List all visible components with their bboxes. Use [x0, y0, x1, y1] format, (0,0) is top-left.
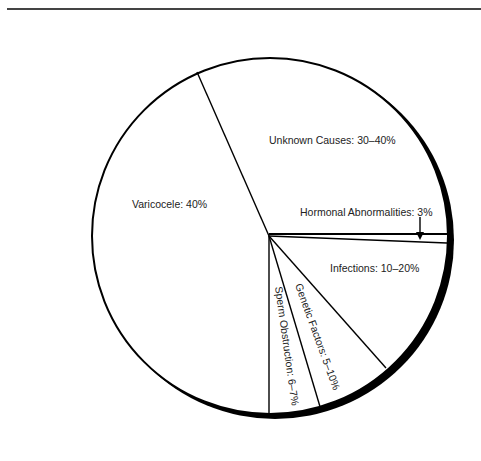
label-hormonal: Hormonal Abnormalities: 3% [300, 206, 432, 218]
label-infections: Infections: 10–20% [330, 262, 419, 274]
label-unknown-causes: Unknown Causes: 30–40% [269, 134, 396, 146]
pie-chart: Varicocele: 40% Unknown Causes: 30–40% H… [0, 0, 481, 461]
label-varicocele: Varicocele: 40% [132, 198, 207, 210]
